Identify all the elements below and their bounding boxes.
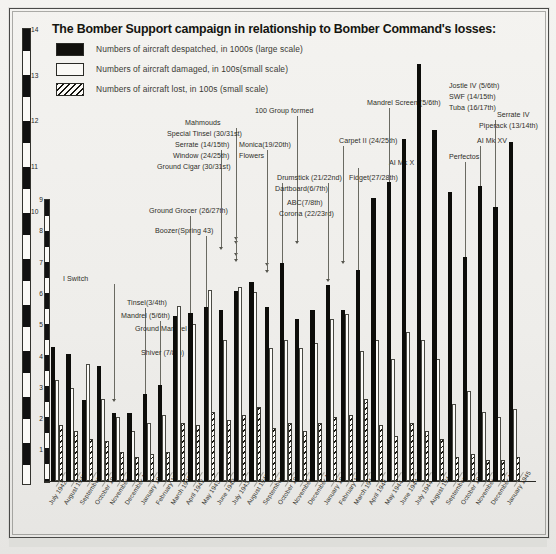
bar-lost	[166, 452, 170, 481]
small-scale-tick: 7	[36, 259, 43, 266]
bar-despatched	[478, 186, 482, 481]
small-scale-tick: 5	[36, 321, 43, 328]
bar-damaged	[314, 343, 318, 481]
bar-despatched	[249, 282, 253, 481]
annotation-arrowhead	[219, 247, 223, 250]
bar-lost	[105, 441, 109, 481]
bar-group	[509, 27, 521, 481]
annotation-label: Jostle IV (5/6th)	[449, 82, 500, 90]
bar-group	[127, 27, 139, 481]
bar-lost	[89, 439, 93, 481]
bar-lost	[318, 423, 322, 481]
bar-lost	[59, 425, 63, 481]
bar-damaged	[162, 415, 166, 481]
bar-damaged	[391, 359, 395, 481]
bar-group	[295, 27, 307, 481]
annotation-label: ABC(7/8th)	[287, 199, 323, 207]
bar-damaged	[131, 431, 135, 481]
bar-group	[371, 27, 383, 481]
bar-group	[417, 27, 429, 481]
annotation-label: Window (24/25th)	[173, 152, 229, 160]
small-scale-tick: 3	[36, 384, 43, 391]
annotation-arrowhead	[112, 399, 116, 402]
annotation-label: Corona (22/23rd)	[279, 210, 334, 218]
bar-damaged	[147, 423, 151, 481]
bar-despatched	[51, 347, 55, 481]
bar-lost	[471, 454, 475, 481]
bar-damaged	[360, 351, 364, 481]
annotation-leader-line	[114, 284, 115, 399]
annotation-label: SWF (14/15th)	[449, 93, 496, 101]
bar-despatched	[265, 307, 269, 481]
annotation-leader-line	[236, 172, 237, 259]
bar-despatched	[509, 142, 513, 481]
bar-despatched	[463, 257, 467, 481]
bar-damaged	[482, 412, 486, 481]
bar-lost	[242, 415, 246, 481]
annotation-arrowhead	[295, 241, 299, 244]
bar-lost	[288, 423, 292, 481]
bar-damaged	[513, 409, 517, 481]
large-scale-tick: 11	[31, 163, 38, 170]
large-scale-tick: 14	[31, 26, 38, 33]
bar-despatched	[219, 310, 223, 481]
annotation-label: Special Tinsel (30/31st)	[167, 130, 242, 138]
chart-page: The Bomber Support campaign in relations…	[0, 0, 556, 554]
annotation-label: Mahmouds	[185, 119, 221, 127]
bar-lost	[211, 412, 215, 481]
bar-lost	[303, 431, 307, 481]
bar-despatched	[97, 366, 101, 481]
bar-despatched	[173, 316, 177, 481]
bar-damaged	[284, 340, 288, 481]
bar-despatched	[417, 64, 421, 481]
annotation-label: Tinsel(3/4th)	[127, 299, 167, 307]
bar-despatched	[112, 413, 116, 481]
bar-lost	[135, 457, 139, 481]
bar-despatched	[326, 285, 330, 481]
bar-lost	[486, 460, 490, 481]
annotation-leader-line	[343, 146, 344, 261]
small-scale-tick: 4	[36, 353, 43, 360]
bar-damaged	[223, 340, 227, 481]
bar-despatched	[234, 291, 238, 481]
bar-despatched	[493, 207, 497, 481]
bar-group	[51, 27, 63, 481]
bar-lost	[455, 457, 459, 481]
bar-lost	[364, 399, 368, 481]
bar-lost	[501, 460, 505, 481]
bar-lost	[349, 415, 353, 481]
bar-despatched	[127, 413, 131, 481]
bar-group	[310, 27, 322, 481]
bar-despatched	[341, 310, 345, 481]
bar-despatched	[158, 385, 162, 481]
bar-damaged	[192, 324, 196, 481]
bar-damaged	[55, 380, 59, 481]
annotation-label: Mandrel Screen (5/6th)	[367, 99, 441, 107]
annotation-arrowhead	[326, 279, 330, 282]
bar-lost	[196, 425, 200, 481]
small-scale-tick: 2	[36, 415, 43, 422]
large-scale-tick: 12	[31, 117, 38, 124]
large-scale-axis-rule	[22, 28, 31, 485]
annotation-leader-line	[328, 183, 329, 279]
large-scale-tick: 10	[31, 208, 38, 215]
small-scale-tick: 9	[36, 196, 43, 203]
annotation-label: Piperack (13/14th)	[479, 122, 538, 130]
bar-damaged	[70, 388, 74, 481]
bar-group	[112, 27, 124, 481]
bar-despatched	[188, 313, 192, 481]
bar-group	[158, 27, 170, 481]
annotation-label: Serrate IV	[497, 111, 529, 119]
bar-damaged	[467, 391, 471, 481]
bar-despatched	[371, 198, 375, 481]
bar-despatched	[356, 270, 360, 481]
bar-group	[173, 27, 185, 481]
bar-damaged	[436, 359, 440, 481]
bar-damaged	[452, 404, 456, 481]
annotation-label: Boozer(Spring 43)	[155, 227, 213, 235]
annotation-label: Monica(19/20th)	[239, 141, 291, 149]
annotation-arrowhead	[341, 261, 345, 264]
bar-damaged	[208, 290, 212, 481]
bar-damaged	[86, 364, 90, 481]
annotation-label: I Switch	[63, 275, 88, 283]
